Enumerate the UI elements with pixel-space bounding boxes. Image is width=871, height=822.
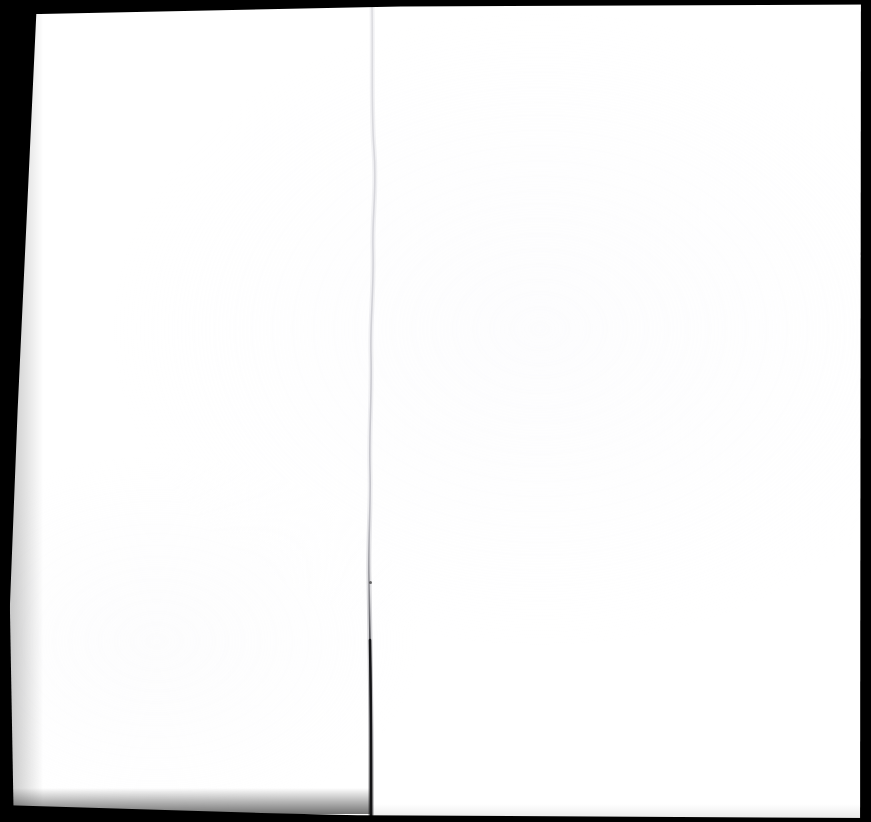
left-page-leaf bbox=[0, 0, 400, 822]
scan-speck bbox=[369, 581, 372, 584]
scanned-document-viewport bbox=[0, 0, 871, 822]
right-page-leaf bbox=[368, 0, 871, 822]
